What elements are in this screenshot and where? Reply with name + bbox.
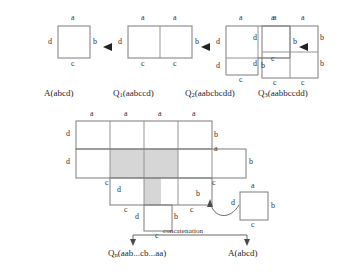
edge-label-d: d — [66, 158, 70, 166]
edge-label-a: a — [173, 14, 177, 22]
edge-label-a: a — [301, 14, 305, 22]
shape-step-Q2 — [226, 26, 290, 75]
edge-label-b: b — [195, 38, 199, 46]
edge-label-a: a — [214, 145, 218, 153]
edge-label-b: b — [320, 34, 324, 42]
shape-polyomino — [76, 121, 246, 231]
concatenation-label: concatenation — [163, 228, 203, 235]
edge-label-c: c — [212, 179, 216, 187]
edge-label-d: d — [118, 38, 122, 46]
edge-label-a: a — [158, 110, 162, 118]
edge-label-d: d — [253, 60, 257, 68]
caption-step-Q1: Q1(aabccd) — [113, 89, 154, 99]
edge-label-c: c — [190, 206, 194, 214]
arrow-1 — [103, 43, 112, 51]
edge-label-d: d — [48, 38, 52, 46]
caption-step-Q2: Q2(aabcbcdd) — [185, 89, 235, 99]
caption-word: (aab...cb...aa) — [118, 248, 166, 258]
caption-word: (abcd) — [235, 248, 258, 258]
concatenation-bracket — [130, 235, 250, 246]
edge-label-c: c — [251, 221, 255, 229]
arrow-2 — [201, 43, 210, 51]
edge-label-c: c — [301, 79, 305, 87]
caption-word: (aabcbcdd) — [195, 88, 235, 98]
edge-label-b: b — [261, 62, 265, 70]
edge-label-a: a — [141, 14, 145, 22]
edge-label-b: b — [293, 38, 297, 46]
caption-word: (aabbccdd) — [268, 88, 308, 98]
edge-label-c: c — [105, 179, 109, 187]
edge-label-c: c — [71, 60, 75, 68]
edge-label-b: b — [249, 158, 253, 166]
edge-label-b: b — [93, 38, 97, 46]
shape-step-A — [58, 26, 90, 58]
edge-label-a: a — [192, 110, 196, 118]
edge-label-b: b — [174, 213, 178, 221]
edge-label-a: a — [273, 14, 277, 22]
diagram-canvas: a b c d a a b c c d a a b c b c d d a a … — [0, 0, 338, 277]
edge-label-c: c — [155, 232, 159, 240]
edge-label-c: c — [273, 79, 277, 87]
edge-label-a: a — [251, 182, 255, 190]
edge-label-d: d — [135, 213, 139, 221]
edge-label-d: d — [216, 38, 220, 46]
edge-label-c: c — [124, 206, 128, 214]
edge-label-c: c — [141, 60, 145, 68]
edge-label-a: a — [124, 110, 128, 118]
edge-label-d: d — [253, 34, 257, 42]
edge-label-d: d — [231, 199, 235, 207]
caption-step-A: A(abcd) — [44, 89, 73, 99]
edge-label-a: a — [239, 14, 243, 22]
caption-word: (aabccd) — [123, 88, 154, 98]
edge-label-c: c — [239, 76, 243, 84]
caption-step-Q3: Q3(aabbccdd) — [258, 89, 308, 99]
caption-small-square-A: A(abcd) — [228, 249, 257, 259]
caption-polyomino: Qn(aab...cb...aa) — [108, 249, 166, 259]
edge-label-a: a — [71, 14, 75, 22]
edge-label-a: a — [90, 110, 94, 118]
shape-small-square-A — [240, 192, 268, 220]
arrow-3 — [299, 43, 308, 51]
shape-step-Q3 — [262, 26, 318, 78]
edge-label-d: d — [216, 62, 220, 70]
edge-label-c: c — [173, 60, 177, 68]
edge-label-c: c — [271, 55, 275, 63]
edge-label-b: b — [214, 131, 218, 139]
edge-label-b: b — [196, 190, 200, 198]
shape-step-Q1 — [128, 26, 192, 58]
edge-label-d: d — [117, 186, 121, 194]
edge-label-b: b — [271, 202, 275, 210]
caption-word: (abcd) — [51, 88, 74, 98]
edge-label-d: d — [66, 130, 70, 138]
edge-label-b: b — [320, 60, 324, 68]
